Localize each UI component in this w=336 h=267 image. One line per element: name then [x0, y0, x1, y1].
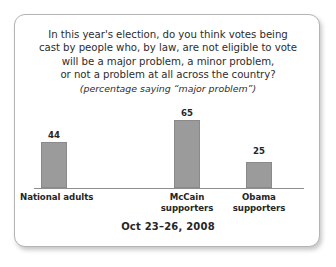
bar-national-adults: [41, 142, 67, 188]
mccain-label-line-1: McCain: [147, 192, 227, 203]
mccain-label-line-2: supporters: [147, 203, 227, 214]
chart-baseline-axis: [34, 188, 304, 189]
bar-value-label-obama-supporters: 25: [246, 146, 272, 156]
survey-date-note: Oct 23–26, 2008: [15, 221, 321, 232]
bar-value-label-mccain-supporters: 65: [174, 108, 200, 118]
obama-label-line-1: Obama: [219, 192, 299, 203]
bar-mccain-supporters: [174, 120, 200, 188]
bar-category-label-mccain-supporters: McCain supporters: [147, 192, 227, 214]
bar-category-label-obama-supporters: Obama supporters: [219, 192, 299, 214]
bar-value-label-national-adults: 44: [41, 130, 67, 140]
poll-result-card: In this year's election, do you think vo…: [14, 14, 320, 247]
bar-chart-plot-area: 44 National adults 65 McCain supporters …: [15, 15, 321, 248]
screenshot-root: In this year's election, do you think vo…: [0, 0, 336, 267]
bar-obama-supporters: [246, 162, 272, 188]
bar-category-label-national-adults: National adults: [20, 192, 130, 203]
obama-label-line-2: supporters: [219, 203, 299, 214]
